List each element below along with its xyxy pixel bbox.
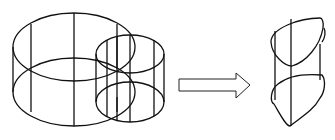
diagram-canvas bbox=[0, 0, 335, 140]
intersection-solid bbox=[271, 18, 325, 126]
transform-arrow-icon bbox=[179, 73, 250, 98]
small-cylinder bbox=[96, 35, 164, 122]
